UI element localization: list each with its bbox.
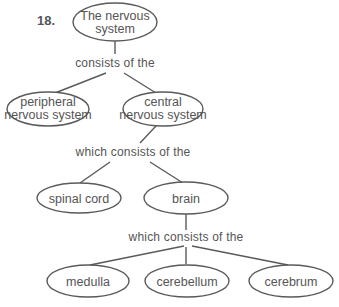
node-label: brain bbox=[172, 192, 200, 206]
edge-link-to-brain bbox=[150, 162, 183, 183]
edge-link-to-spinal-cord bbox=[80, 162, 110, 183]
edge-link-to-central bbox=[124, 73, 156, 93]
node-medulla: medulla bbox=[47, 265, 129, 297]
link-label-central-consists: which consists of the bbox=[75, 145, 191, 159]
node-cerebellum: cerebellum bbox=[145, 265, 229, 297]
node-label: medulla bbox=[66, 275, 110, 289]
node-central-nervous-system: central nervous system bbox=[119, 92, 207, 126]
node-label: cerebrum bbox=[265, 275, 318, 289]
node-label-line1: central bbox=[144, 95, 182, 109]
node-label-line2: system bbox=[95, 22, 135, 36]
node-peripheral-nervous-system: peripheral nervous system bbox=[4, 92, 92, 126]
edge-link-to-peripheral bbox=[55, 73, 106, 93]
link-label-consists: consists of the bbox=[75, 56, 155, 70]
problem-number: 18. bbox=[37, 13, 55, 28]
node-label-line2: nervous system bbox=[119, 108, 207, 122]
node-label: spinal cord bbox=[49, 192, 109, 206]
edge-link-to-cerebrum bbox=[192, 246, 288, 265]
node-nervous-system: The nervous system bbox=[73, 3, 157, 41]
node-label-line2: nervous system bbox=[4, 108, 92, 122]
node-cerebrum: cerebrum bbox=[249, 265, 333, 297]
edge-central-to-link bbox=[140, 126, 156, 143]
edge-link-to-medulla bbox=[90, 246, 184, 265]
node-label-line1: The nervous bbox=[80, 9, 149, 23]
node-label-line1: peripheral bbox=[20, 95, 76, 109]
node-label: cerebellum bbox=[156, 275, 217, 289]
concept-map: 18. The nervous system consists of the p… bbox=[0, 0, 339, 307]
node-brain: brain bbox=[144, 182, 228, 214]
node-spinal-cord: spinal cord bbox=[37, 183, 121, 213]
link-label-brain-consists: which consists of the bbox=[128, 230, 244, 244]
